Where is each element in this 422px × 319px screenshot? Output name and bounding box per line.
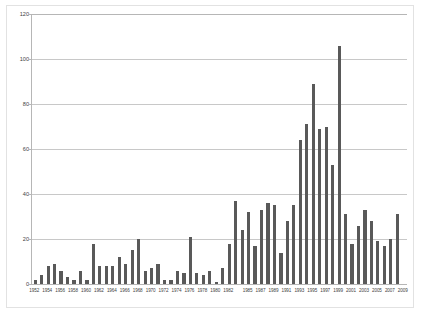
bar-1993 <box>299 140 302 284</box>
x-tick-label-1972: 1972 <box>159 287 169 294</box>
y-axis: 020406080100120 <box>7 14 29 284</box>
x-tick-label-1954: 1954 <box>42 287 52 294</box>
bar-1974 <box>176 271 179 285</box>
x-tick-label-2007: 2007 <box>385 287 395 294</box>
bar-2007 <box>389 239 392 284</box>
bar-1980 <box>215 282 218 284</box>
x-tick-label-2001: 2001 <box>346 287 356 294</box>
bar-1992 <box>292 205 295 284</box>
bar-1964 <box>111 266 114 284</box>
x-tick-label-1952: 1952 <box>29 287 39 294</box>
x-tick-label-1997: 1997 <box>320 287 330 294</box>
bar-1954 <box>47 266 50 284</box>
bar-2006 <box>383 246 386 284</box>
bar-1994 <box>305 124 308 284</box>
bar-1975 <box>182 273 185 284</box>
bar-1965 <box>118 257 121 284</box>
bar-1984 <box>241 230 244 284</box>
bar-2008 <box>396 214 399 284</box>
x-tick-label-2009: 2009 <box>398 287 408 294</box>
bar-2002 <box>357 226 360 285</box>
bar-1988 <box>266 203 269 284</box>
y-tick-label-60: 60 <box>7 146 29 152</box>
x-tick-label-2005: 2005 <box>372 287 382 294</box>
bar-1972 <box>163 280 166 285</box>
bar-1977 <box>195 273 198 284</box>
y-tick-label-120: 120 <box>7 11 29 17</box>
bar-2001 <box>350 244 353 285</box>
x-tick-label-1960: 1960 <box>81 287 91 294</box>
y-tick-label-40: 40 <box>7 191 29 197</box>
bar-2005 <box>376 241 379 284</box>
bar-1990 <box>279 253 282 285</box>
x-tick-label-1976: 1976 <box>184 287 194 294</box>
bar-1982 <box>228 244 231 285</box>
bar-1987 <box>260 210 263 284</box>
bar-1983 <box>234 201 237 284</box>
bar-1955 <box>53 264 56 284</box>
bar-1971 <box>156 264 159 284</box>
bar-1997 <box>325 127 328 285</box>
bar-1967 <box>131 250 134 284</box>
bar-1979 <box>208 271 211 285</box>
y-tick-label-100: 100 <box>7 56 29 62</box>
x-tick-label-1993: 1993 <box>294 287 304 294</box>
x-tick-label-2003: 2003 <box>359 287 369 294</box>
bar-1952 <box>34 280 37 285</box>
chart-area: 020406080100120 195219541956195819601962… <box>7 6 413 307</box>
x-tick-label-1980: 1980 <box>210 287 220 294</box>
bar-1981 <box>221 268 224 284</box>
bar-1970 <box>150 268 153 284</box>
x-tick-label-1982: 1982 <box>223 287 233 294</box>
bar-1963 <box>105 266 108 284</box>
bar-1966 <box>124 264 127 284</box>
bar-1989 <box>273 205 276 284</box>
y-tick-label-80: 80 <box>7 101 29 107</box>
x-tick-label-1989: 1989 <box>269 287 279 294</box>
bar-1999 <box>338 46 341 285</box>
x-tick-label-1958: 1958 <box>68 287 78 294</box>
x-tick-label-1995: 1995 <box>307 287 317 294</box>
x-tick-label-1966: 1966 <box>120 287 130 294</box>
bar-1996 <box>318 129 321 284</box>
y-tick-mark-0 <box>29 284 32 285</box>
bar-1973 <box>169 280 172 285</box>
bar-1961 <box>92 244 95 285</box>
bar-1976 <box>189 237 192 284</box>
x-tick-label-1968: 1968 <box>133 287 143 294</box>
bar-1968 <box>137 239 140 284</box>
bar-2003 <box>363 210 366 284</box>
bar-1978 <box>202 275 205 284</box>
bar-series <box>32 14 407 284</box>
bar-1986 <box>253 246 256 284</box>
bar-1956 <box>59 271 62 285</box>
bar-2004 <box>370 221 373 284</box>
x-tick-label-1964: 1964 <box>107 287 117 294</box>
x-tick-label-1985: 1985 <box>243 287 253 294</box>
chart-frame: 020406080100120 195219541956195819601962… <box>6 5 414 308</box>
bar-1998 <box>331 165 334 284</box>
y-tick-label-0: 0 <box>7 281 29 287</box>
bar-1962 <box>98 266 101 284</box>
bar-1991 <box>286 221 289 284</box>
x-tick-label-1999: 1999 <box>333 287 343 294</box>
bar-2000 <box>344 214 347 284</box>
x-axis: 1952195419561958196019621964196619681970… <box>31 287 406 299</box>
bar-1969 <box>144 271 147 285</box>
bar-1953 <box>40 275 43 284</box>
bar-1959 <box>79 271 82 285</box>
x-tick-label-1978: 1978 <box>197 287 207 294</box>
bar-1960 <box>85 280 88 285</box>
bar-1958 <box>72 280 75 285</box>
x-tick-label-1991: 1991 <box>281 287 291 294</box>
x-tick-label-1970: 1970 <box>146 287 156 294</box>
plot-area <box>31 14 407 285</box>
bar-1995 <box>312 84 315 284</box>
bar-1985 <box>247 212 250 284</box>
x-tick-label-1956: 1956 <box>55 287 65 294</box>
x-tick-label-1987: 1987 <box>256 287 266 294</box>
bar-1957 <box>66 277 69 284</box>
y-tick-label-20: 20 <box>7 236 29 242</box>
x-tick-label-1962: 1962 <box>94 287 104 294</box>
x-tick-label-1974: 1974 <box>172 287 182 294</box>
